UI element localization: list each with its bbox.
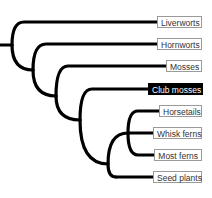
taxon-label-seed-plants: Seed plants (153, 171, 202, 183)
branch-node6 (108, 133, 128, 164)
branch-node2 (12, 45, 33, 70)
taxon-label-hornworts: Hornworts (157, 38, 202, 50)
cladogram-tree (0, 0, 212, 198)
taxon-label-whisk-ferns: Whisk ferns (153, 127, 202, 139)
branch-node4 (56, 96, 80, 120)
taxon-label-mosses: Mosses (166, 60, 202, 72)
taxon-label-horsetails: Horsetails (159, 105, 202, 117)
branch-liverworts (12, 22, 160, 45)
branch-node3 (33, 70, 56, 96)
taxon-label-club-mosses: Club mosses (148, 83, 203, 95)
taxon-label-liverworts: Liverworts (157, 16, 202, 28)
branch-most-ferns (128, 133, 156, 155)
branch-club-mosses (80, 89, 150, 120)
taxon-label-most-ferns: Most ferns (154, 149, 202, 161)
